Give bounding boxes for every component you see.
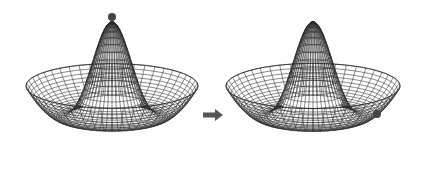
surface-wireframe [26,22,198,131]
ball-icon [108,13,116,21]
mexican-hat-potential-before [26,13,198,131]
right-arrow-icon [203,109,223,121]
diagram-canvas [0,0,426,181]
mexican-hat-potential-after [226,22,400,132]
ball-icon [373,110,381,118]
